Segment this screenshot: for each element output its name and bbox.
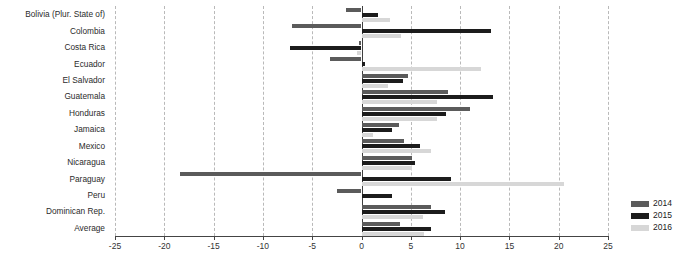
legend-swatch-2016 [631, 225, 649, 231]
bar-2015 [362, 29, 491, 33]
x-tick-20 [559, 236, 560, 240]
x-tick-label--15: -15 [207, 241, 219, 251]
gridline--10 [263, 6, 265, 236]
bar-2014 [337, 189, 362, 193]
legend-label-2015: 2015 [653, 211, 672, 220]
gridline-25 [608, 6, 610, 236]
gridline--25 [115, 6, 117, 236]
category-label: Honduras [69, 108, 105, 117]
x-tick-label--5: -5 [308, 241, 316, 251]
x-tick-15 [509, 236, 510, 240]
bar-2014 [362, 156, 412, 160]
gridline-15 [509, 6, 511, 236]
category-label: El Salvador [63, 75, 105, 84]
category-label: Costa Rica [64, 43, 105, 52]
x-tick-5 [411, 236, 412, 240]
category-label: Nicaragua [67, 158, 105, 167]
x-tick-label-15: 15 [505, 241, 514, 251]
bar-2015 [362, 95, 493, 99]
bar-2015 [362, 112, 447, 116]
x-tick-0 [362, 236, 363, 240]
legend-swatch-2015 [631, 213, 649, 219]
legend-item-2014[interactable]: 2014 [631, 199, 672, 208]
x-tick--25 [115, 236, 116, 240]
x-tick-label-10: 10 [455, 241, 464, 251]
category-label: Paraguay [69, 174, 105, 183]
bar-2014 [362, 222, 400, 226]
bar-chart: Bolivia (Plur. State of)ColombiaCosta Ri… [0, 0, 683, 268]
legend-item-2016[interactable]: 2016 [631, 223, 672, 232]
category-label: Ecuador [74, 59, 105, 68]
x-tick-label-0: 0 [359, 241, 364, 251]
gridline--20 [164, 6, 166, 236]
x-tick-label--10: -10 [257, 241, 269, 251]
bar-2014 [346, 8, 362, 12]
x-tick-label--25: -25 [109, 241, 121, 251]
bar-2016 [362, 215, 423, 219]
category-label: Jamaica [74, 125, 105, 134]
bar-2016 [357, 51, 362, 55]
category-label: Peru [87, 190, 105, 199]
bar-2016 [362, 133, 374, 137]
bar-2015 [290, 46, 362, 50]
category-label: Colombia [70, 26, 105, 35]
bar-2015 [362, 62, 366, 66]
gridline-10 [460, 6, 462, 236]
bar-2015 [362, 177, 452, 181]
bar-2016 [362, 232, 424, 236]
legend-label-2016: 2016 [653, 223, 672, 232]
x-tick--5 [312, 236, 313, 240]
x-tick--20 [164, 236, 165, 240]
category-label: Average [74, 223, 105, 232]
bar-2016 [362, 18, 391, 22]
gridline--15 [214, 6, 216, 236]
bar-2014 [362, 123, 399, 127]
category-label: Bolivia (Plur. State of) [25, 10, 105, 19]
bar-2016 [362, 149, 431, 153]
bar-2014 [330, 57, 362, 61]
bar-2015 [362, 194, 393, 198]
bar-2016 [362, 100, 438, 104]
legend-swatch-2014 [631, 201, 649, 207]
bar-2015 [362, 144, 420, 148]
x-tick-label--20: -20 [158, 241, 170, 251]
bar-2014 [362, 107, 470, 111]
bar-2016 [362, 34, 401, 38]
x-tick-10 [460, 236, 461, 240]
bar-2015 [362, 227, 431, 231]
gridline-0 [362, 6, 364, 236]
bar-2015 [362, 161, 415, 165]
legend-label-2014: 2014 [653, 199, 672, 208]
bar-2014 [362, 205, 431, 209]
bar-2016 [362, 182, 564, 186]
bar-2014 [362, 74, 408, 78]
category-label: Guatemala [64, 92, 105, 101]
gridline--5 [312, 6, 314, 236]
x-tick--15 [214, 236, 215, 240]
bar-2016 [362, 84, 389, 88]
bar-2014 [180, 172, 361, 176]
legend-item-2015[interactable]: 2015 [631, 211, 672, 220]
bar-2014 [359, 41, 362, 45]
x-tick-label-20: 20 [554, 241, 563, 251]
x-tick--10 [263, 236, 264, 240]
chart-legend: 2014 2015 2016 [631, 199, 672, 232]
category-label: Mexico [79, 141, 105, 150]
category-axis-labels: Bolivia (Plur. State of)ColombiaCosta Ri… [0, 6, 110, 236]
x-tick-label-25: 25 [603, 241, 612, 251]
gridline-5 [411, 6, 413, 236]
bar-2015 [362, 13, 379, 17]
bar-2016 [362, 67, 481, 71]
x-tick-25 [608, 236, 609, 240]
bar-2014 [362, 90, 449, 94]
bar-2014 [292, 24, 361, 28]
bar-2015 [362, 128, 393, 132]
gridline-20 [559, 6, 561, 236]
category-label: Dominican Rep. [46, 207, 105, 216]
plot-area [115, 6, 608, 236]
bar-2015 [362, 210, 446, 214]
bar-2016 [362, 166, 412, 170]
bar-2016 [362, 117, 438, 121]
x-tick-label-5: 5 [408, 241, 413, 251]
bar-2014 [362, 139, 404, 143]
